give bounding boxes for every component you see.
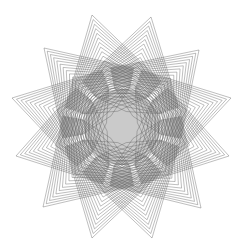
star-canvas — [0, 0, 245, 252]
dense-center — [84, 89, 160, 165]
